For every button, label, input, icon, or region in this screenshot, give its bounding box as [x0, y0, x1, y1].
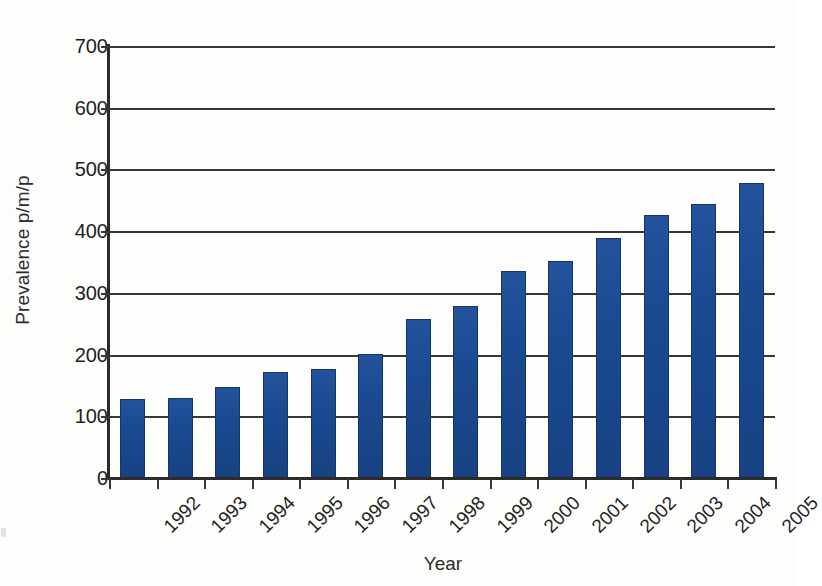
x-axis-tick-label-1994: 1994: [254, 492, 299, 537]
x-axis-tick-label-2003: 2003: [682, 492, 727, 537]
x-axis-tick-label-1995: 1995: [302, 492, 347, 537]
x-axis-tick-label-2000: 2000: [540, 492, 585, 537]
x-axis-tick-label-1998: 1998: [445, 492, 490, 537]
bar-1994: [215, 387, 240, 478]
y-axis-tick-mark: [101, 46, 113, 48]
bar-1995: [263, 372, 288, 478]
x-axis-tick-marks: [109, 478, 777, 490]
bar-1999: [453, 306, 478, 478]
x-axis-tick-mark: [727, 478, 729, 489]
x-axis-tick-mark: [490, 478, 492, 489]
x-axis-tick-mark: [680, 478, 682, 489]
gridline: [109, 293, 775, 295]
x-axis-tick-mark: [157, 478, 159, 489]
x-axis-tick-label-1996: 1996: [349, 492, 394, 537]
x-axis-tick-mark: [109, 478, 111, 489]
plot-area: [109, 46, 775, 478]
x-axis-tick-mark: [299, 478, 301, 489]
bar-1998: [406, 319, 431, 478]
gridline: [109, 416, 775, 418]
bar-1996: [311, 369, 336, 478]
x-axis-tick-label-1999: 1999: [492, 492, 537, 537]
x-axis-tick-mark: [585, 478, 587, 489]
bar-2004: [691, 204, 716, 478]
bar-2001: [548, 261, 573, 478]
gridline: [109, 231, 775, 233]
x-axis-tick-label-2005: 2005: [778, 492, 822, 537]
y-axis-tick-mark: [101, 355, 113, 357]
bar-2002: [596, 238, 621, 478]
gridline: [109, 355, 775, 357]
y-axis-tick-mark: [101, 416, 113, 418]
bar-2005: [739, 183, 764, 478]
y-axis-tick-mark: [101, 169, 113, 171]
x-axis-tick-label-2002: 2002: [635, 492, 680, 537]
x-axis-tick-mark: [537, 478, 539, 489]
x-axis-tick-mark: [347, 478, 349, 489]
gridline: [109, 169, 775, 171]
gridline: [109, 108, 775, 110]
bar-1993: [168, 398, 193, 478]
x-axis-tick-label-1997: 1997: [397, 492, 442, 537]
gridline: [109, 46, 775, 48]
x-axis-tick-label-2001: 2001: [587, 492, 632, 537]
x-axis-tick-mark: [394, 478, 396, 489]
x-axis-tick-labels: 1992199319941995199619971998199920002001…: [109, 492, 777, 552]
bar-2003: [644, 215, 669, 478]
x-axis-tick-label-2004: 2004: [730, 492, 775, 537]
bar-2000: [501, 271, 526, 478]
bar-1997: [358, 354, 383, 478]
x-axis-tick-label-1992: 1992: [159, 492, 204, 537]
x-axis-title: Year: [109, 553, 777, 575]
x-axis-tick-mark: [442, 478, 444, 489]
x-axis-tick-label-1993: 1993: [207, 492, 252, 537]
y-axis-tick-mark: [101, 293, 113, 295]
x-axis-tick-mark: [632, 478, 634, 489]
x-axis-tick-mark: [252, 478, 254, 489]
x-axis-tick-mark: [775, 478, 777, 489]
y-axis-tick-mark: [101, 108, 113, 110]
x-axis-tick-mark: [204, 478, 206, 489]
y-axis-tick-mark: [101, 231, 113, 233]
